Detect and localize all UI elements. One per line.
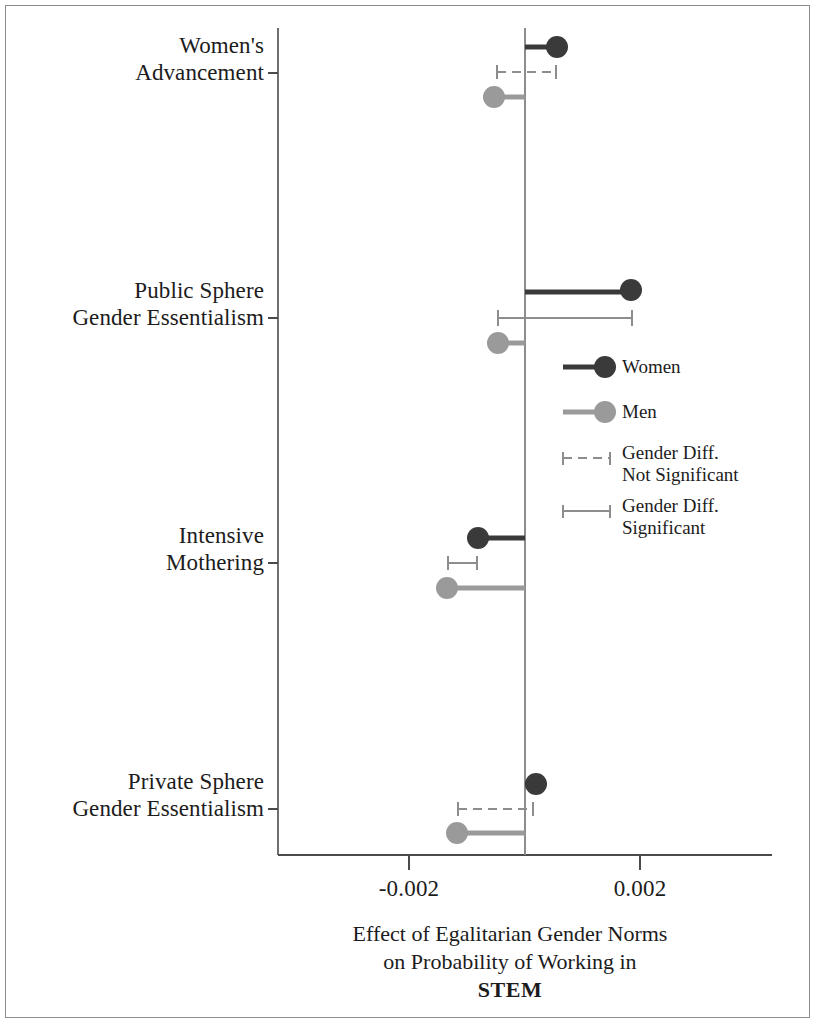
data-row-public-sphere-gender-essentialism <box>487 279 642 354</box>
women-point <box>546 36 568 58</box>
x-tick-label-neg-0002: -0.002 <box>349 876 469 902</box>
x-tick-label-pos-0002: 0.002 <box>580 876 700 902</box>
figure: Women's Advancement Public Sphere Gender… <box>0 0 817 1025</box>
legend-marker-men-dot <box>594 401 616 423</box>
men-point <box>483 86 505 108</box>
y-axis-label-private-sphere-gender-essentialism: Private Sphere Gender Essentialism <box>10 768 264 822</box>
legend-label-gender-diff-not-significant: Gender Diff. Not Significant <box>622 442 739 486</box>
x-axis-title: Effect of Egalitarian Gender Norms on Pr… <box>250 920 770 1004</box>
men-point <box>487 332 509 354</box>
y-axis-label-intensive-mothering: Intensive Mothering <box>10 522 264 576</box>
data-row-private-sphere-gender-essentialism <box>446 773 547 844</box>
legend-marker-women-dot <box>594 356 616 378</box>
y-axis-label-womens-advancement: Women's Advancement <box>10 32 264 86</box>
legend <box>563 356 616 518</box>
x-axis-title-line2: on Probability of Working in <box>250 948 770 976</box>
y-axis-label-public-sphere-gender-essentialism: Public Sphere Gender Essentialism <box>10 277 264 331</box>
legend-label-gender-diff-significant: Gender Diff. Significant <box>622 495 719 539</box>
men-point <box>436 577 458 599</box>
women-point <box>620 279 642 301</box>
legend-label-men: Men <box>622 401 657 423</box>
men-point <box>446 822 468 844</box>
x-axis-title-line1: Effect of Egalitarian Gender Norms <box>250 920 770 948</box>
data-row-intensive-mothering <box>436 527 525 599</box>
legend-label-women: Women <box>622 356 681 378</box>
women-point <box>525 773 547 795</box>
women-point <box>467 527 489 549</box>
x-axis-title-line3: STEM <box>250 976 770 1004</box>
